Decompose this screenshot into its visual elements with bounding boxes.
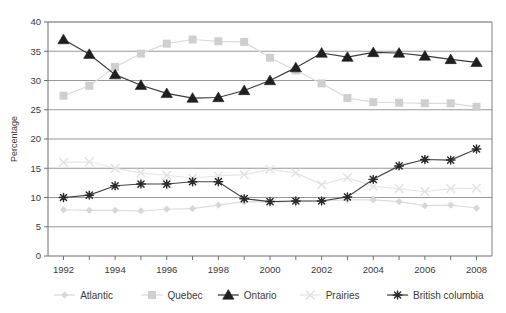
data-point-marker [239,85,250,95]
data-point-marker [395,198,402,205]
data-point-marker [137,180,146,188]
data-point-marker [214,37,222,45]
data-point-marker [60,206,67,213]
y-tick-label: 20 [30,133,41,144]
data-point-marker [240,38,248,46]
data-point-marker [369,98,377,106]
data-point-marker [421,156,430,164]
data-point-marker [473,204,480,211]
y-axis-title-text: Percentage [9,116,19,162]
legend-label: Quebec [168,290,203,301]
data-point-marker [316,48,327,58]
data-point-marker [161,88,172,98]
data-point-marker [447,99,455,107]
series-line [63,162,476,192]
chart-canvas: 0510152025303540 19921994199619982000200… [0,0,506,313]
legend-item-quebec[interactable]: Quebec [142,290,203,301]
data-point-marker [472,145,481,153]
series-british-columbia [59,145,481,206]
x-tick-label: 1994 [105,264,126,275]
series-ontario [58,34,482,102]
data-point-marker [318,79,326,87]
data-point-marker [59,92,67,100]
data-point-marker [318,181,326,189]
line-chart: 0510152025303540 19921994199619982000200… [0,0,506,313]
data-point-marker [446,156,455,164]
x-tick-label: 1998 [208,264,229,275]
data-point-marker [266,198,275,206]
data-point-marker [473,103,481,111]
data-point-marker [393,291,402,299]
data-point-marker [343,94,351,102]
legend-item-ontario[interactable]: Ontario [218,290,277,301]
data-point-marker [112,207,119,214]
data-point-marker [189,36,197,44]
y-tick-label: 5 [36,221,41,232]
y-tick-label: 10 [30,192,41,203]
y-axis-ticks: 0510152025303540 [30,16,48,261]
data-point-marker [135,80,146,90]
data-point-marker [86,207,93,214]
x-tick-label: 2008 [466,264,487,275]
data-point-marker [61,291,68,298]
x-tick-label: 2004 [363,264,384,275]
data-point-marker [214,178,223,186]
data-point-marker [148,291,156,299]
y-tick-label: 40 [30,16,41,27]
data-point-marker [447,202,454,209]
data-point-marker [368,47,379,57]
data-point-marker [58,34,69,44]
data-point-marker [163,40,171,48]
x-axis-ticks: 199219941996199820002002200420062008 [53,256,487,275]
y-tick-label: 30 [30,75,41,86]
data-point-marker [264,75,275,85]
series-line [63,40,476,107]
series-line [63,40,476,99]
data-point-marker [85,82,93,90]
legend-item-prairies[interactable]: Prairies [300,290,360,301]
data-point-marker [189,205,196,212]
series-quebec [59,36,480,111]
data-point-marker [343,193,352,201]
x-tick-label: 1996 [156,264,177,275]
data-point-marker [111,182,120,190]
data-point-marker [215,202,222,209]
data-point-marker [188,178,197,186]
x-tick-label: 2006 [414,264,435,275]
chart-legend: AtlanticQuebecOntarioPrairiesBritish col… [54,290,484,301]
y-axis-title: Percentage [9,116,19,162]
x-tick-label: 2002 [311,264,332,275]
data-point-marker [85,191,94,199]
data-point-marker [369,175,378,183]
data-point-marker [84,49,95,59]
data-point-marker [266,54,274,62]
legend-label: Prairies [326,290,360,301]
y-tick-label: 35 [30,46,41,57]
data-point-marker [137,207,144,214]
y-tick-label: 15 [30,163,41,174]
x-tick-label: 1992 [53,264,74,275]
legend-item-british-columbia[interactable]: British columbia [387,290,484,301]
data-point-marker [344,174,352,182]
data-point-marker [421,202,428,209]
x-tick-label: 2000 [259,264,280,275]
data-point-marker [395,99,403,107]
data-point-marker [137,50,145,58]
y-tick-label: 25 [30,104,41,115]
data-point-marker [292,197,301,205]
data-series [58,34,482,214]
data-point-marker [395,162,404,170]
y-tick-label: 0 [36,250,41,261]
data-point-marker [163,206,170,213]
series-line [63,149,476,202]
legend-item-atlantic[interactable]: Atlantic [54,290,113,301]
data-point-marker [162,180,171,188]
data-point-marker [240,195,249,203]
series-prairies [60,158,481,196]
data-point-marker [421,99,429,107]
legend-label: Atlantic [80,290,113,301]
data-point-marker [59,194,68,202]
legend-label: Ontario [244,290,277,301]
legend-label: British columbia [413,290,484,301]
data-point-marker [317,197,326,205]
